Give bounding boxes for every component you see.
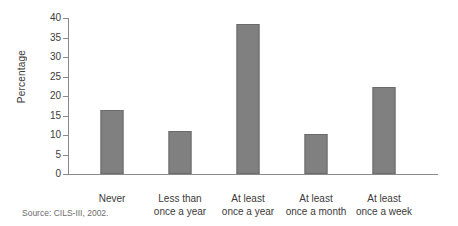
bar bbox=[305, 134, 328, 174]
y-tick-mark bbox=[63, 96, 68, 97]
y-tick-label: 0 bbox=[55, 167, 61, 180]
x-axis-line bbox=[68, 174, 438, 175]
bar-slot bbox=[78, 14, 146, 174]
bar-slot bbox=[282, 14, 350, 174]
x-axis-label: At leastonce a week bbox=[336, 192, 432, 218]
y-tick-label: 5 bbox=[55, 148, 61, 161]
y-tick-mark bbox=[63, 135, 68, 136]
y-tick-label: 40 bbox=[50, 11, 61, 24]
y-tick-mark bbox=[63, 57, 68, 58]
y-tick-mark bbox=[63, 155, 68, 156]
y-tick-mark bbox=[63, 174, 68, 175]
y-axis-line bbox=[68, 18, 69, 174]
bar-slot bbox=[214, 14, 282, 174]
bar bbox=[169, 131, 192, 174]
bar-slot bbox=[350, 14, 418, 174]
plot-area: 0510152025303540 NeverLess thanonce a ye… bbox=[68, 14, 438, 174]
y-tick-mark bbox=[63, 18, 68, 19]
y-tick-mark bbox=[63, 116, 68, 117]
y-tick-label: 35 bbox=[50, 31, 61, 44]
y-axis-title: Percentage bbox=[16, 50, 30, 103]
y-tick-label: 25 bbox=[50, 70, 61, 83]
y-tick-label: 15 bbox=[50, 109, 61, 122]
bar bbox=[237, 24, 260, 174]
y-tick-mark bbox=[63, 77, 68, 78]
x-axis-label-line: At least bbox=[336, 192, 432, 205]
bar-slot bbox=[146, 14, 214, 174]
y-tick-label: 30 bbox=[50, 50, 61, 63]
bar bbox=[373, 87, 396, 174]
bar bbox=[101, 110, 124, 174]
x-axis-label-line: once a week bbox=[336, 205, 432, 218]
source-note: Source: CILS-III, 2002. bbox=[22, 208, 108, 219]
y-tick-mark bbox=[63, 38, 68, 39]
y-tick-label: 20 bbox=[50, 89, 61, 102]
y-tick-label: 10 bbox=[50, 128, 61, 141]
bar-chart-figure: Percentage 0510152025303540 NeverLess th… bbox=[0, 0, 458, 226]
